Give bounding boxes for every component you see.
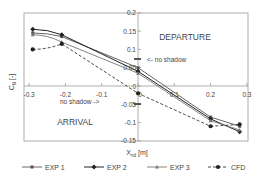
x-tick-label: -0.2 — [60, 91, 72, 98]
legend-item-exp-1: EXP 1 — [22, 164, 65, 171]
x-tick-label: 0.2 — [206, 91, 215, 98]
x-tick-label: -0.3 — [23, 91, 35, 98]
y-tick-label: -0.1 — [125, 119, 137, 126]
y-tick-label: 0.2 — [127, 9, 136, 16]
svg-text:CN [-]: CN [-] — [8, 74, 17, 91]
arrival-label: ARRIVAL — [57, 117, 93, 127]
legend-item-exp-3: EXP 3 — [147, 164, 190, 171]
svg-text:EXP 3: EXP 3 — [170, 164, 190, 171]
series-exp-1 — [31, 31, 241, 127]
svg-text:EXP 1: EXP 1 — [45, 164, 65, 171]
chart-svg: 0.20.150.10.050-0.05-0.1-0.15 -0.3-0.2-0… — [0, 0, 258, 177]
x-tick-label: -0.1 — [96, 91, 108, 98]
legend-item-cfd: CFD — [208, 164, 245, 171]
y-tick-label: 0.15 — [123, 28, 136, 35]
legend: EXP 1EXP 2EXP 3CFD — [22, 164, 245, 171]
svg-text:EXP 2: EXP 2 — [107, 164, 127, 171]
no-shadow-right-label: <- no shadow — [147, 56, 187, 63]
x-tick-label: 0.3 — [242, 91, 251, 98]
no-shadow-left-label: no shadow -> — [60, 98, 99, 105]
y-axis-label: CN [-] — [8, 74, 17, 91]
departure-label: DEPARTURE — [159, 32, 211, 42]
x-axis-ticks: -0.3-0.2-0.100.10.20.3 — [23, 83, 251, 98]
chart: 0.20.150.10.050-0.05-0.1-0.15 -0.3-0.2-0… — [0, 0, 258, 177]
series-cfd — [31, 42, 242, 129]
y-tick-label: 0.1 — [127, 46, 136, 53]
legend-item-exp-2: EXP 2 — [84, 164, 127, 171]
y-tick-label: -0.15 — [121, 137, 136, 144]
x-axis-label: Xnd [m] — [126, 149, 147, 158]
svg-text:CFD: CFD — [231, 164, 245, 171]
